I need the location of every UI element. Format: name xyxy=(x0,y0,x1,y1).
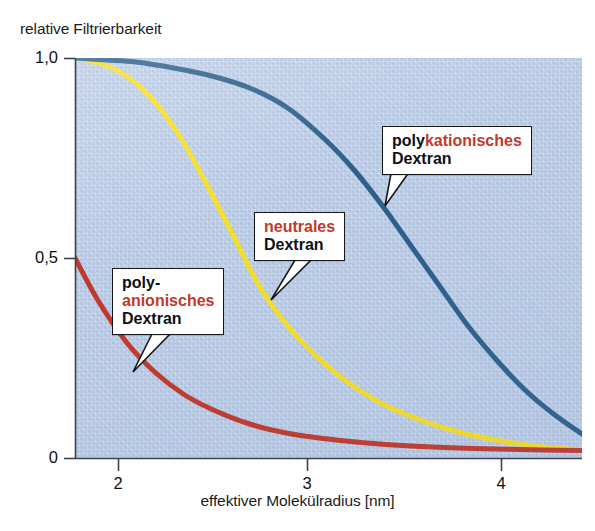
y-axis-title: relative Filtrierbarkeit xyxy=(20,20,161,38)
callout-text-dextran-neutral: Dextran xyxy=(264,236,335,254)
callout-text-poly-dash: poly- xyxy=(122,274,214,292)
x-tick-label-1: 2 xyxy=(98,474,138,493)
x-axis-title: effektiver Molekülradius [nm] xyxy=(0,492,595,510)
callout-neutrales: neutrales Dextran xyxy=(254,212,345,261)
figure-root: relative Filtrierbarkeit 1,0 0,5 0 2 3 4… xyxy=(0,0,595,531)
x-tick-label-2: 3 xyxy=(287,474,327,493)
callout-text-kationisches: kationisches xyxy=(425,132,522,149)
x-tick-label-3: 4 xyxy=(481,474,521,493)
callout-text-neutrales: neutrales xyxy=(264,218,335,236)
y-tick-label-3: 0 xyxy=(6,448,58,467)
callout-text-poly: poly xyxy=(392,132,425,149)
callout-line-1: polykationisches xyxy=(392,132,522,150)
callout-polyanionisches: poly- anionisches Dextran xyxy=(112,268,224,335)
callout-line-2: Dextran xyxy=(392,150,522,168)
y-tick-label-2: 0,5 xyxy=(6,248,58,267)
callout-text-anionisches: anionisches xyxy=(122,292,214,310)
callout-text-dextran-anion: Dextran xyxy=(122,310,214,328)
callout-polykationisches: polykationisches Dextran xyxy=(382,126,532,175)
y-tick-label-1: 1,0 xyxy=(6,48,58,67)
